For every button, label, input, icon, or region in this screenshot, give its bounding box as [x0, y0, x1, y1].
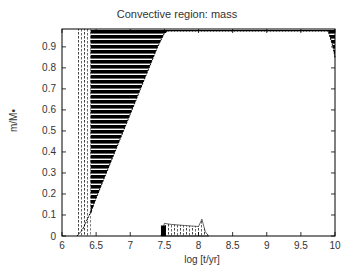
envelope-early-strip: [77, 29, 91, 236]
y-tick-label: 0.5: [42, 125, 56, 136]
x-tick-label: 6.5: [89, 240, 103, 251]
core-convective-region: [161, 219, 209, 236]
y-tick-label: 0.9: [42, 41, 56, 52]
x-tick-label: 8.5: [226, 240, 240, 251]
x-tick-label: 8: [196, 240, 202, 251]
y-tick-label: 0.1: [42, 209, 56, 220]
x-tick-label: 9: [264, 240, 270, 251]
y-tick-label: 0.7: [42, 83, 56, 94]
y-tick-label: 0.6: [42, 104, 56, 115]
core-region-dense-block: [161, 225, 166, 236]
y-tick-label: 0.3: [42, 167, 56, 178]
x-tick-label: 7.5: [157, 240, 171, 251]
series-layer: [77, 29, 335, 236]
y-tick-label: 0.2: [42, 188, 56, 199]
y-tick-label: 0.4: [42, 146, 56, 157]
x-tick-label: 10: [329, 240, 341, 251]
y-tick-label: 0.8: [42, 62, 56, 73]
x-tick-label: 7: [127, 240, 133, 251]
x-tick-label: 9.5: [294, 240, 308, 251]
y-tick-label: 0: [50, 231, 56, 242]
plot-area: 66.577.588.599.51000.10.20.30.40.50.60.7…: [0, 0, 354, 279]
x-tick-label: 6: [59, 240, 65, 251]
convective-envelope-region: [91, 29, 335, 236]
